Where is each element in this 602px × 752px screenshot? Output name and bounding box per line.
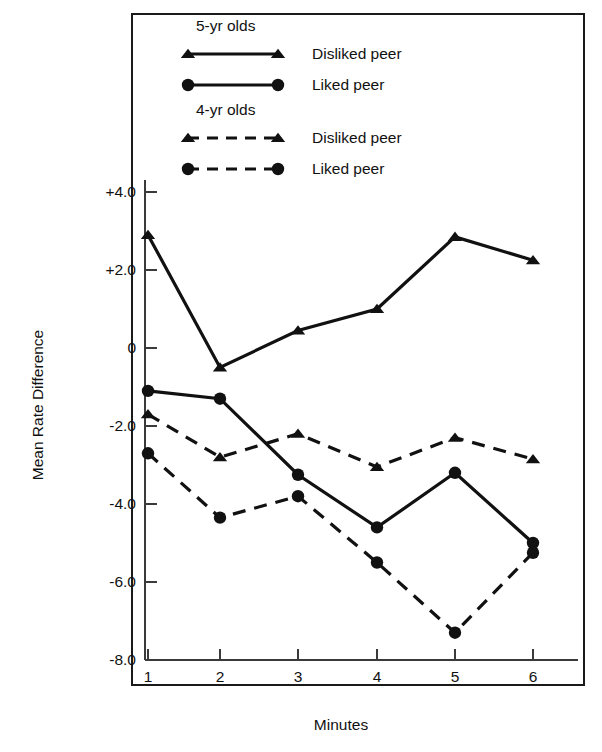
y-tick-label: -6.0 bbox=[40, 574, 136, 590]
series-1 bbox=[141, 230, 540, 372]
x-tick-label: 3 bbox=[278, 669, 318, 685]
legend-item: Disliked peer bbox=[178, 122, 478, 153]
legend-marker-circle-icon bbox=[178, 74, 290, 96]
series-4 bbox=[142, 447, 539, 639]
legend-item: Liked peer bbox=[178, 69, 478, 100]
legend-marker-circle-icon bbox=[178, 158, 290, 180]
data-point-circle bbox=[449, 467, 461, 479]
data-point-circle bbox=[527, 547, 539, 559]
legend-item: Disliked peer bbox=[178, 38, 478, 69]
legend-item-label: Liked peer bbox=[312, 76, 384, 94]
data-point-circle bbox=[214, 393, 226, 405]
legend-marker-triangle-icon bbox=[178, 43, 290, 65]
legend-item: Liked peer bbox=[178, 153, 478, 184]
x-tick-label: 1 bbox=[128, 669, 168, 685]
series-3 bbox=[141, 409, 540, 471]
x-tick-label: 6 bbox=[513, 669, 553, 685]
y-tick-label: -8.0 bbox=[40, 652, 136, 668]
legend-group-title: 4-yr olds bbox=[196, 100, 478, 120]
series-line bbox=[148, 414, 533, 467]
legend-marker-triangle-icon bbox=[178, 127, 290, 149]
x-tick-label: 4 bbox=[357, 669, 397, 685]
chart-page: +4.0+2.00-2.0-4.0-6.0-8.0 123456 Mean Ra… bbox=[0, 0, 602, 752]
data-point-circle bbox=[371, 521, 383, 533]
y-tick-label: -2.0 bbox=[40, 418, 136, 434]
y-tick-label: +4.0 bbox=[40, 184, 136, 200]
legend: 5-yr oldsDisliked peerLiked peer4-yr old… bbox=[178, 16, 478, 184]
data-point-circle bbox=[371, 556, 383, 568]
data-point-circle bbox=[292, 469, 304, 481]
data-point-triangle bbox=[141, 230, 155, 239]
x-axis-title: Minutes bbox=[241, 716, 441, 734]
y-tick-label: +2.0 bbox=[40, 262, 136, 278]
series-line bbox=[148, 235, 533, 368]
series-line bbox=[148, 391, 533, 543]
series-2 bbox=[142, 385, 539, 550]
x-tick-label: 2 bbox=[200, 669, 240, 685]
data-point-circle bbox=[142, 447, 154, 459]
data-point-circle bbox=[142, 385, 154, 397]
legend-item-label: Disliked peer bbox=[312, 45, 402, 63]
legend-group-title: 5-yr olds bbox=[196, 16, 478, 36]
data-point-circle bbox=[214, 511, 226, 523]
data-point-triangle bbox=[291, 429, 305, 438]
series-line bbox=[148, 453, 533, 632]
data-point-triangle bbox=[448, 232, 462, 241]
y-axis-title: Mean Rate Difference bbox=[29, 305, 47, 505]
y-tick-label: -4.0 bbox=[40, 496, 136, 512]
data-point-circle bbox=[449, 627, 461, 639]
y-tick-label: 0 bbox=[40, 340, 136, 356]
data-point-triangle bbox=[526, 454, 540, 463]
data-point-circle bbox=[292, 490, 304, 502]
legend-item-label: Disliked peer bbox=[312, 129, 402, 147]
x-tick-label: 5 bbox=[435, 669, 475, 685]
data-point-triangle bbox=[448, 432, 462, 441]
data-point-triangle bbox=[141, 409, 155, 418]
legend-item-label: Liked peer bbox=[312, 160, 384, 178]
